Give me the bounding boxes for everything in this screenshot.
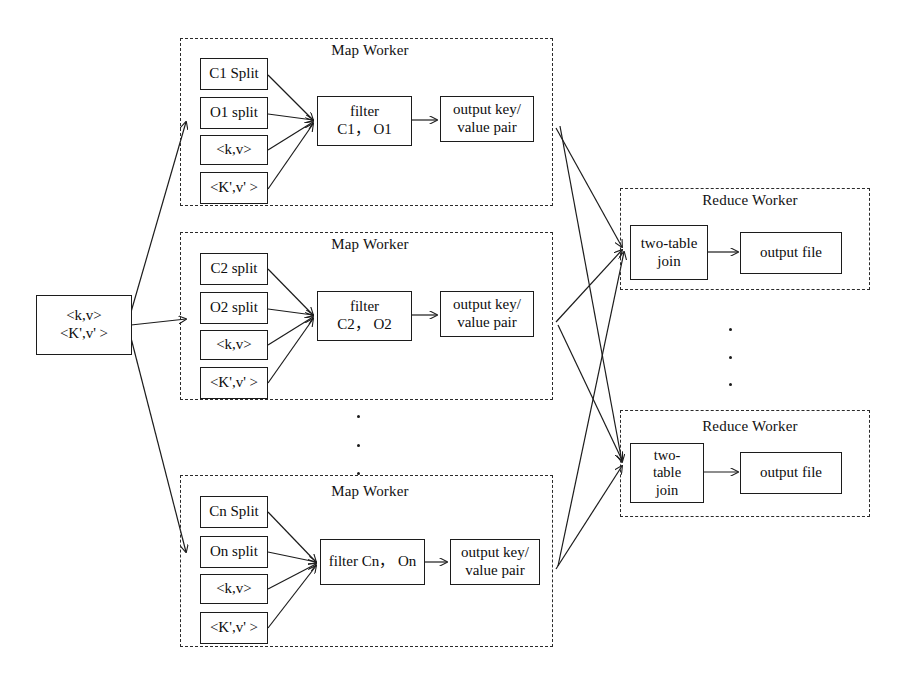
- map-worker-3-split-4[interactable]: <K',v' >: [200, 612, 268, 644]
- reduce-worker-1-output[interactable]: output file: [740, 232, 842, 274]
- map-worker-1-split-1[interactable]: C1 Split: [200, 58, 268, 90]
- input-line-1: <k,v>: [66, 307, 102, 325]
- map-worker-2-split-3[interactable]: <k,v>: [200, 330, 268, 360]
- input-key-value-box[interactable]: <k,v> <K',v' >: [36, 295, 132, 355]
- map-worker-2-title: Map Worker: [300, 236, 440, 253]
- edge-m3-to-r2: [556, 466, 622, 569]
- map-worker-2-filter[interactable]: filter C2， O2: [317, 291, 412, 341]
- ellipsis-dot: [729, 356, 732, 359]
- map-worker-3-filter[interactable]: filter Cn， On: [320, 539, 425, 585]
- edge-m3-to-r1: [558, 252, 624, 566]
- map-worker-1-filter[interactable]: filter C1， O1: [317, 96, 412, 146]
- edge-m2-to-r2: [558, 325, 622, 460]
- reduce-worker-2-output[interactable]: output file: [740, 452, 842, 494]
- map-worker-2-split-1[interactable]: C2 split: [200, 253, 268, 285]
- map-worker-2-output[interactable]: output key/ value pair: [440, 291, 534, 337]
- map-worker-1-output[interactable]: output key/ value pair: [440, 96, 534, 142]
- map-worker-1-title: Map Worker: [300, 42, 440, 59]
- reduce-worker-1-title: Reduce Worker: [680, 192, 820, 209]
- input-line-2: <K',v' >: [60, 325, 108, 343]
- ellipsis-dot: [729, 383, 732, 386]
- map-worker-ellipsis: [356, 415, 360, 475]
- map-worker-3-split-2[interactable]: On split: [200, 536, 268, 568]
- edge-input-to-map1: [131, 122, 186, 312]
- edge-m1-to-r1: [556, 128, 622, 247]
- ellipsis-dot: [357, 415, 360, 418]
- map-worker-3-output[interactable]: output key/ value pair: [450, 539, 540, 585]
- edge-input-to-map3: [131, 338, 186, 552]
- reduce-worker-2-title: Reduce Worker: [680, 418, 820, 435]
- map-worker-1-split-2[interactable]: O1 split: [200, 97, 268, 129]
- diagram-canvas: <k,v> <K',v' > Map Worker C1 Split O1 sp…: [0, 0, 905, 683]
- edge-m2-to-r1: [556, 250, 622, 322]
- map-worker-1-split-4[interactable]: <K',v' >: [200, 172, 268, 204]
- reduce-worker-2-join[interactable]: two- table join: [630, 443, 704, 503]
- map-worker-3-split-1[interactable]: Cn Split: [200, 496, 268, 528]
- map-worker-3-split-3[interactable]: <k,v>: [200, 574, 268, 604]
- ellipsis-dot: [729, 328, 732, 331]
- map-worker-2-split-4[interactable]: <K',v' >: [200, 367, 268, 399]
- map-worker-1-split-3[interactable]: <k,v>: [200, 135, 268, 165]
- map-worker-2-split-2[interactable]: O2 split: [200, 292, 268, 324]
- reduce-worker-ellipsis: [728, 328, 732, 386]
- reduce-worker-1-join[interactable]: two-table join: [630, 225, 708, 280]
- ellipsis-dot: [357, 444, 360, 447]
- map-worker-3-title: Map Worker: [300, 483, 440, 500]
- edge-m1-to-r2: [560, 126, 622, 462]
- edge-input-to-map2: [131, 319, 186, 325]
